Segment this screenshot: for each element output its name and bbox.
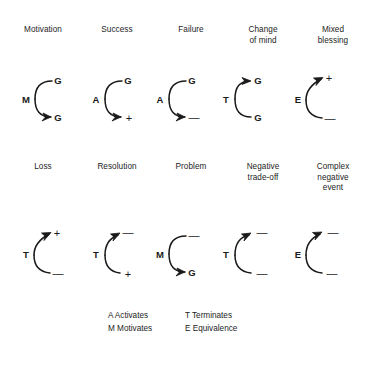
upper-node-label: — <box>328 226 339 238</box>
upper-branch-path <box>105 81 122 99</box>
upper-node-label: G <box>188 75 195 86</box>
diagram-success-svg: A G + <box>88 70 160 128</box>
column-header-negative-trade-off: Negative trade-off <box>224 162 302 183</box>
source-letter: A <box>157 94 164 105</box>
diagram-complex-negative-event-svg: E — — <box>290 225 362 283</box>
column-header-motivation: Motivation <box>4 25 82 36</box>
diagram-mixed-blessing: E + — <box>290 70 362 128</box>
upper-branch-path <box>169 81 186 99</box>
upper-branch-path <box>169 236 186 254</box>
lower-node-label: — <box>257 267 268 279</box>
diagram-mixed-blessing-svg: E + — <box>290 70 362 128</box>
lower-branch-arrowhead <box>42 113 51 121</box>
upper-node-label: — <box>189 229 200 241</box>
lower-node-label: G <box>188 267 195 278</box>
column-header-problem: Problem <box>152 162 230 173</box>
upper-branch-arrowhead <box>313 232 323 240</box>
source-letter: T <box>23 249 29 260</box>
lower-node-label: — <box>325 112 336 124</box>
lower-branch-path <box>34 255 50 273</box>
lower-branch-path <box>105 255 120 273</box>
diagram-change-of-mind-svg: T G G <box>218 70 290 128</box>
diagram-loss: T + — <box>18 225 90 283</box>
diagram-resolution: T — + <box>88 225 160 283</box>
lower-node-label: — <box>189 111 200 123</box>
column-header-resolution: Resolution <box>78 162 156 173</box>
diagram-failure: A G — <box>152 70 224 128</box>
lower-branch-path <box>169 99 185 117</box>
source-letter: E <box>295 249 301 260</box>
diagram-resolution-svg: T — + <box>88 225 160 283</box>
upper-branch-path <box>35 81 52 99</box>
column-header-mixed-blessing: Mixed blessing <box>295 25 371 46</box>
source-letter: T <box>223 249 229 260</box>
lower-branch-path <box>306 255 322 273</box>
upper-branch-path <box>235 81 249 99</box>
upper-branch-arrowhead <box>42 233 52 241</box>
diagram-problem: M — G <box>152 225 224 283</box>
lower-node-label: — <box>327 267 338 279</box>
lower-node-label: G <box>54 112 61 123</box>
lower-node-label: G <box>254 112 261 123</box>
legend-column-left: A Activates M Motivates <box>108 310 152 335</box>
lower-branch-path <box>105 99 121 117</box>
upper-node-label: — <box>257 226 268 238</box>
source-letter: T <box>223 94 229 105</box>
lower-branch-arrowhead <box>176 113 185 121</box>
lower-branch-path <box>169 254 185 272</box>
upper-node-label: + <box>326 72 332 84</box>
legend-column-right: T Terminates E Equivalence <box>185 310 237 335</box>
column-header-success: Success <box>78 25 156 36</box>
upper-node-label: G <box>124 75 131 86</box>
upper-branch-arrowhead <box>111 233 121 241</box>
lower-branch-arrowhead <box>112 113 121 121</box>
diagram-complex-negative-event: E — — <box>290 225 362 283</box>
lower-node-label: + <box>125 268 131 280</box>
lower-node-label: — <box>53 267 64 279</box>
diagram-negative-trade-off: T — — <box>218 225 290 283</box>
upper-node-label: + <box>54 227 60 239</box>
lower-branch-path <box>306 100 322 118</box>
upper-node-label: — <box>123 226 134 238</box>
column-header-complex-negative-event: Complex negative event <box>295 162 371 194</box>
lower-branch-path <box>235 255 251 273</box>
lower-node-label: + <box>126 112 132 124</box>
upper-node-label: G <box>54 75 61 86</box>
source-letter: T <box>93 249 99 260</box>
lower-branch-path <box>235 99 251 117</box>
diagram-loss-svg: T + — <box>18 225 90 283</box>
diagram-motivation-svg: M G G <box>18 70 90 128</box>
diagram-motivation: M G G <box>18 70 90 128</box>
source-letter: A <box>93 94 100 105</box>
diagram-problem-svg: M — G <box>152 225 224 283</box>
diagram-failure-svg: A G — <box>152 70 224 128</box>
lower-branch-path <box>35 99 51 117</box>
source-letter: E <box>295 94 301 105</box>
upper-node-label: G <box>254 75 261 86</box>
semantic-relations-figure: Motivation Success Failure Change of min… <box>0 0 371 374</box>
upper-branch-arrowhead <box>242 78 251 85</box>
column-header-failure: Failure <box>152 25 230 36</box>
diagram-success: A G + <box>88 70 160 128</box>
lower-branch-arrowhead <box>176 268 185 276</box>
upper-branch-arrowhead <box>314 78 324 86</box>
diagram-change-of-mind: T G G <box>218 70 290 128</box>
source-letter: M <box>156 249 164 260</box>
column-header-change-of-mind: Change of mind <box>224 25 302 46</box>
source-letter: M <box>22 94 30 105</box>
diagram-negative-trade-off-svg: T — — <box>218 225 290 283</box>
column-header-loss: Loss <box>4 162 82 173</box>
